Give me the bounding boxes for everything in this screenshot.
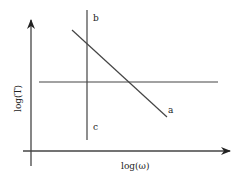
diagram-canvas: b c a log(ω) log(T) (0, 0, 240, 179)
label-a: a (168, 105, 174, 115)
label-c: c (93, 122, 98, 132)
y-axis-label: log(T) (13, 85, 23, 112)
label-b: b (93, 13, 99, 23)
x-axis-label: log(ω) (121, 161, 149, 171)
line-a (72, 30, 167, 117)
